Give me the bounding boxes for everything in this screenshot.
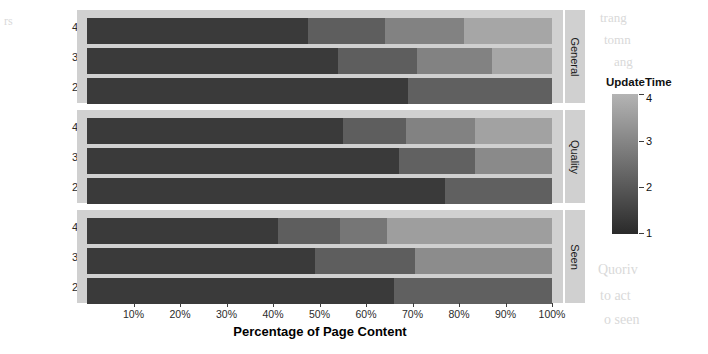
x-tick-label: 50% [309,308,330,320]
legend-tick-label: 3 [646,135,652,147]
bar-segment[interactable] [415,248,552,274]
bar-segment[interactable] [406,118,476,144]
facet-strip-general: General [565,10,585,103]
legend-tick-mark [639,141,644,142]
x-axis-title: Percentage of Page Content [77,324,563,339]
bar-segment[interactable] [308,18,385,44]
x-axis: 10%20%30%40%50%60%70%80%90%100% [77,303,563,323]
y-tick-label: 3 [44,252,78,263]
chart-figure: rs trang tomn ang Quoriv to act o seen N… [0,0,708,354]
x-tick-label: 100% [539,308,566,320]
bar-segment[interactable] [343,118,406,144]
panel-plot-area [87,114,552,199]
bar-segment[interactable] [338,48,417,74]
bar-row[interactable] [87,218,552,244]
bar-segment[interactable] [445,178,552,204]
bar-segment[interactable] [87,178,445,204]
panel-plot-area [87,14,552,99]
bar-segment[interactable] [399,148,476,174]
ghost-text-right-low-2: to act [600,288,631,304]
x-tick-mark [320,303,321,307]
ghost-text-right-mid: ang [614,54,633,70]
legend-tick-mark [639,233,644,234]
y-tick-label: 4 [44,22,78,33]
y-tick-label: 3 [44,152,78,163]
y-tick-label: 2 [44,82,78,93]
bar-row[interactable] [87,248,552,274]
bar-segment[interactable] [87,218,278,244]
bar-segment[interactable] [475,148,552,174]
facet-strip-label: Quality [569,139,581,173]
bar-segment[interactable] [87,78,408,104]
bar-row[interactable] [87,148,552,174]
facet-strip-quality: Quality [565,110,585,203]
bar-row[interactable] [87,18,552,44]
legend-tick-mark [639,94,644,95]
x-tick-label: 30% [216,308,237,320]
bar-row[interactable] [87,278,552,304]
x-tick-mark [413,303,414,307]
facet-strip-seen: Seen [565,210,585,303]
x-tick-mark [180,303,181,307]
y-tick-label: 2 [44,282,78,293]
x-tick-mark [459,303,460,307]
bar-row[interactable] [87,118,552,144]
bar-segment[interactable] [394,278,552,304]
bar-segment[interactable] [475,118,552,144]
bar-segment[interactable] [492,48,552,74]
x-tick-mark [552,303,553,307]
x-tick-label: 60% [355,308,376,320]
bar-segment[interactable] [87,278,394,304]
x-tick-mark [134,303,135,307]
bar-segment[interactable] [87,118,343,144]
bar-row[interactable] [87,178,552,204]
x-tick-mark [506,303,507,307]
facet-strip-label: General [569,37,581,76]
y-tick-label: 3 [44,52,78,63]
y-axis-tick-labels: 432432432 [38,0,78,354]
x-tick-mark [366,303,367,307]
y-tick-label: 4 [44,222,78,233]
x-tick-label: 20% [169,308,190,320]
panel-quality [77,110,563,203]
facet-strip-label: Seen [569,244,581,270]
bar-segment[interactable] [315,248,415,274]
legend-title: UpdateTime [606,76,672,88]
legend-tick-mark [639,187,644,188]
bar-segment[interactable] [387,218,552,244]
panel-plot-area [87,214,552,299]
ghost-text-right-low-1: Quoriv [598,262,638,278]
bar-row[interactable] [87,48,552,74]
y-tick-label: 4 [44,122,78,133]
ghost-text-left-top: rs [4,14,13,29]
bar-segment[interactable] [87,18,308,44]
ghost-text-right-top-1: trang [600,10,627,26]
x-tick-mark [273,303,274,307]
legend-tick-label: 2 [646,181,652,193]
bar-segment[interactable] [87,248,315,274]
legend-colorbar [612,94,638,234]
bar-segment[interactable] [87,148,399,174]
legend-tick-label: 4 [646,92,652,104]
panel-seen [77,210,563,303]
bar-segment[interactable] [278,218,341,244]
x-tick-label: 80% [448,308,469,320]
x-tick-label: 70% [402,308,423,320]
x-tick-label: 90% [495,308,516,320]
legend-tick-label: 1 [646,227,652,239]
x-tick-label: 10% [123,308,144,320]
bar-segment[interactable] [408,78,552,104]
ghost-text-right-top-2: tomn [604,32,631,48]
ghost-text-right-low-3: o seen [604,312,639,328]
bar-row[interactable] [87,78,552,104]
x-tick-label: 40% [262,308,283,320]
bar-segment[interactable] [340,218,387,244]
y-tick-label: 2 [44,182,78,193]
bar-segment[interactable] [464,18,552,44]
bar-segment[interactable] [87,48,338,74]
bar-segment[interactable] [385,18,464,44]
bar-segment[interactable] [417,48,491,74]
panel-general [77,10,563,103]
legend: UpdateTime 4321 [606,76,702,246]
x-tick-mark [227,303,228,307]
